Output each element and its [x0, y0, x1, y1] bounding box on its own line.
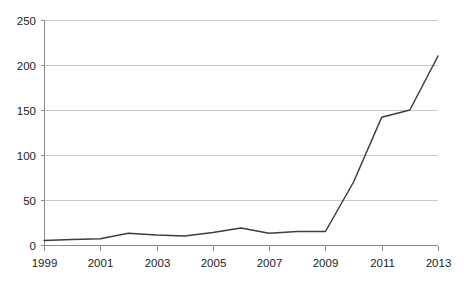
x-tick-label-2001: 2001	[88, 257, 114, 269]
x-tick-label-2003: 2003	[145, 257, 171, 269]
x-tick-label-2007: 2007	[257, 257, 283, 269]
y-tick-label-50: 50	[23, 195, 36, 207]
x-tick-label-2013: 2013	[426, 257, 452, 269]
y-tick-label-0: 0	[30, 240, 36, 252]
gridlines	[44, 21, 438, 201]
x-axis: 19992001200320052007200920112013	[32, 246, 452, 269]
line-chart: 050100150200250 199920012003200520072009…	[0, 0, 464, 283]
x-tick-label-2011: 2011	[370, 257, 395, 269]
data-series	[44, 56, 438, 241]
x-tick-label-2009: 2009	[313, 257, 339, 269]
data-line-series-1	[44, 56, 438, 241]
chart-canvas: 050100150200250 199920012003200520072009…	[0, 0, 464, 283]
x-tick-label-2005: 2005	[201, 257, 227, 269]
y-tick-label-100: 100	[17, 150, 36, 162]
y-tick-label-150: 150	[17, 105, 36, 117]
y-tick-label-200: 200	[17, 60, 36, 72]
y-axis: 050100150200250	[17, 15, 45, 252]
y-tick-label-250: 250	[17, 15, 36, 27]
x-tick-label-1999: 1999	[32, 257, 58, 269]
